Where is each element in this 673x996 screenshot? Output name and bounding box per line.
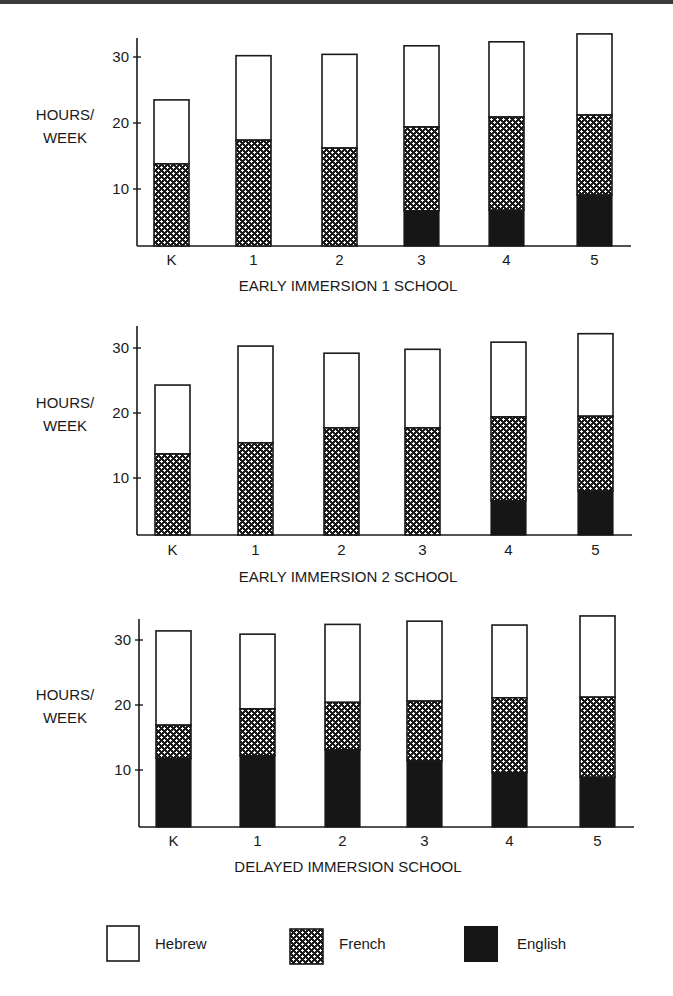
segment-english (325, 750, 360, 827)
y-tick-label: 30 (112, 339, 129, 356)
y-tick-label: 20 (112, 404, 129, 421)
segment-french (407, 701, 442, 761)
chart-title: EARLY IMMERSION 1 SCHOOL (239, 277, 458, 294)
x-tick-label: 4 (505, 832, 513, 849)
x-tick-label: K (168, 832, 178, 849)
segment-hebrew (491, 342, 526, 417)
segment-hebrew (236, 56, 271, 140)
y-axis-label: WEEK (43, 709, 87, 726)
segment-french (154, 164, 189, 246)
segment-french (577, 115, 612, 195)
legend-label-french: French (339, 935, 386, 952)
segment-french (236, 140, 271, 246)
y-tick-label: 30 (114, 631, 131, 648)
segment-hebrew (240, 634, 275, 709)
legend-item-hebrew: Hebrew (107, 926, 207, 961)
x-tick-label: 5 (590, 251, 598, 268)
segment-hebrew (325, 624, 360, 702)
segment-hebrew (322, 54, 357, 148)
segment-french (489, 117, 524, 210)
y-tick-label: 10 (112, 180, 129, 197)
segment-english (492, 773, 527, 827)
segment-hebrew (580, 616, 615, 697)
y-tick-label: 20 (112, 114, 129, 131)
segment-english (580, 777, 615, 827)
x-tick-label: 1 (251, 541, 259, 558)
x-tick-label: 1 (249, 251, 257, 268)
legend-label-english: English (517, 935, 566, 952)
segment-french (324, 428, 359, 535)
segment-english (404, 211, 439, 246)
y-axis-label: HOURS/ (36, 106, 95, 123)
segment-hebrew (407, 621, 442, 701)
x-tick-label: 1 (253, 832, 261, 849)
x-tick-label: 3 (418, 541, 426, 558)
segment-hebrew (492, 625, 527, 698)
chart-title: DELAYED IMMERSION SCHOOL (234, 858, 461, 875)
segment-hebrew (155, 385, 190, 454)
segment-hebrew (404, 46, 439, 127)
legend-item-french: French (290, 929, 386, 964)
segment-french (491, 417, 526, 501)
x-tick-label: K (166, 251, 176, 268)
segment-french (325, 702, 360, 749)
chart-early-immersion-2: HOURS/WEEK102030K12345EARLY IMMERSION 2 … (36, 326, 632, 585)
bar-5 (580, 616, 615, 827)
x-tick-label: 4 (502, 251, 510, 268)
segment-french (405, 428, 440, 535)
segment-hebrew (405, 349, 440, 428)
bar-1 (238, 346, 273, 535)
segment-french (580, 697, 615, 777)
segment-french (404, 127, 439, 211)
segment-hebrew (577, 34, 612, 115)
bar-4 (489, 42, 524, 246)
segment-hebrew (489, 42, 524, 117)
bar-4 (491, 342, 526, 535)
segment-english (491, 501, 526, 535)
bar-4 (492, 625, 527, 827)
segment-hebrew (156, 631, 191, 725)
y-axis-label: WEEK (43, 417, 87, 434)
bar-3 (404, 46, 439, 246)
segment-french (578, 416, 613, 491)
bar-2 (324, 353, 359, 535)
x-tick-label: 3 (420, 832, 428, 849)
bar-1 (240, 634, 275, 827)
segment-hebrew (238, 346, 273, 443)
segment-english (240, 756, 275, 827)
bar-2 (322, 54, 357, 246)
x-tick-label: 4 (504, 541, 512, 558)
bar-5 (578, 334, 613, 535)
x-tick-label: 2 (335, 251, 343, 268)
y-tick-label: 30 (112, 48, 129, 65)
bar-3 (407, 621, 442, 827)
segment-english (156, 758, 191, 827)
segment-hebrew (154, 100, 189, 164)
legend-swatch-french (290, 929, 323, 964)
segment-hebrew (324, 353, 359, 428)
x-tick-label: 3 (417, 251, 425, 268)
chart-delayed-immersion: HOURS/WEEK102030K12345DELAYED IMMERSION … (36, 616, 634, 875)
segment-english (578, 491, 613, 535)
segment-french (322, 148, 357, 246)
y-axis-label: HOURS/ (36, 394, 95, 411)
legend-swatch-english (464, 926, 498, 962)
bar-3 (405, 349, 440, 535)
segment-french (492, 698, 527, 773)
bar-2 (325, 624, 360, 827)
legend-label-hebrew: Hebrew (155, 935, 207, 952)
legend-item-english: English (464, 926, 566, 962)
x-tick-label: K (167, 541, 177, 558)
bar-5 (577, 34, 612, 246)
y-tick-label: 20 (114, 696, 131, 713)
segment-french (156, 725, 191, 758)
segment-hebrew (578, 334, 613, 417)
segment-english (577, 195, 612, 246)
x-tick-label: 5 (591, 541, 599, 558)
y-axis-label: HOURS/ (36, 686, 95, 703)
x-tick-label: 2 (337, 541, 345, 558)
chart-early-immersion-1: HOURS/WEEK102030K12345EARLY IMMERSION 1 … (36, 34, 631, 294)
segment-french (155, 454, 190, 535)
chart-title: EARLY IMMERSION 2 SCHOOL (239, 568, 458, 585)
bar-K (156, 631, 191, 827)
